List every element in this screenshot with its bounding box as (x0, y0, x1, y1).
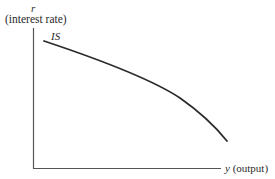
x-axis-symbol: y (225, 162, 230, 174)
is-curve-label: IS (51, 30, 60, 42)
is-curve (44, 41, 227, 141)
is-curve-chart: r (interest rate) IS y (output) (0, 0, 275, 179)
x-axis-description: (output) (233, 162, 268, 174)
x-axis-label: y (output) (225, 162, 268, 174)
y-axis-description: (interest rate) (5, 13, 67, 25)
chart-plot-area (0, 0, 275, 179)
